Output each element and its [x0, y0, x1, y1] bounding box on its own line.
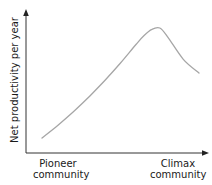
y-axis-arrow-icon — [23, 9, 29, 16]
x-tick-climax-community: Climax community — [150, 158, 206, 180]
productivity-succession-chart: Net productivity per year Pioneer commun… — [0, 0, 212, 185]
productivity-curve — [42, 28, 199, 138]
x-tick-pioneer-line1: Pioneer — [33, 158, 83, 169]
x-axis-arrow-icon — [202, 150, 209, 156]
y-axis-label: Net productivity per year — [9, 17, 20, 143]
x-tick-climax-line2: community — [150, 169, 206, 180]
x-tick-pioneer-community: Pioneer community — [33, 158, 83, 180]
x-tick-climax-line1: Climax — [150, 158, 206, 169]
x-tick-pioneer-line2: community — [33, 169, 83, 180]
